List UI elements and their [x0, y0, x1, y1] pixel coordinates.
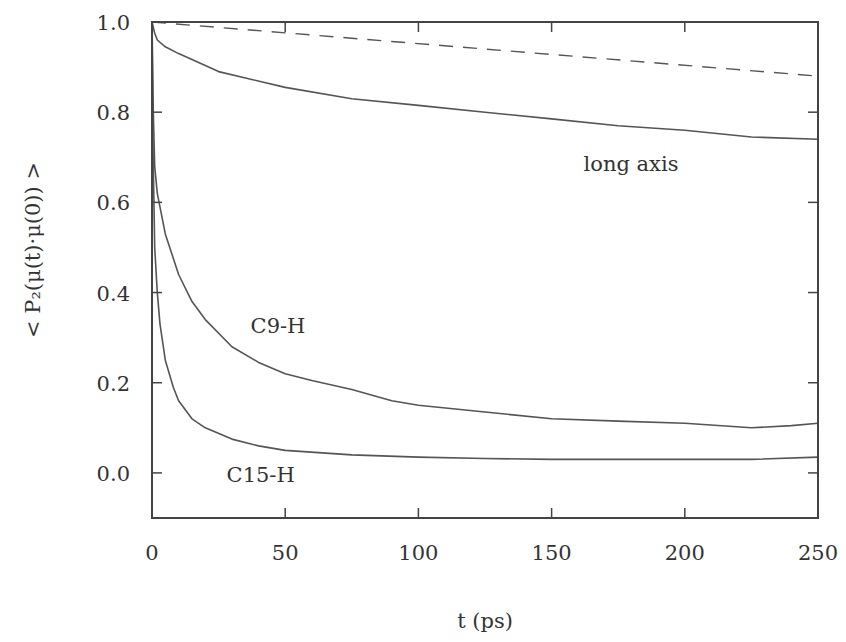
y-tick-label: 0.6 [97, 191, 130, 215]
x-axis-title: t (ps) [457, 609, 513, 633]
x-tick-label: 200 [665, 541, 705, 565]
series-layer [152, 22, 818, 459]
y-tick-label: 0.2 [97, 372, 130, 396]
y-axis-title: < P₂(μ(t)·μ(0)) > [21, 162, 45, 338]
x-tick-label: 250 [798, 541, 838, 565]
y-tick-label: 1.0 [97, 11, 130, 35]
series-reference-dashed [152, 22, 818, 76]
series-c15-h [152, 22, 818, 459]
x-tick-label: 0 [145, 541, 158, 565]
annotation-long-axis: long axis [584, 152, 679, 176]
series-long-axis [152, 22, 818, 139]
labels-layer: 0501001502002500.00.20.40.60.81.0long ax… [97, 11, 838, 565]
x-tick-label: 50 [272, 541, 299, 565]
y-tick-label: 0.4 [97, 282, 130, 306]
x-tick-label: 150 [532, 541, 572, 565]
annotation-c15-h: C15-H [227, 463, 295, 487]
series-c9-h [152, 22, 818, 428]
x-tick-label: 100 [398, 541, 438, 565]
annotation-c9-h: C9-H [251, 314, 306, 338]
y-tick-label: 0.8 [97, 101, 130, 125]
chart: 0501001502002500.00.20.40.60.81.0long ax… [0, 0, 846, 642]
y-tick-label: 0.0 [97, 462, 130, 486]
